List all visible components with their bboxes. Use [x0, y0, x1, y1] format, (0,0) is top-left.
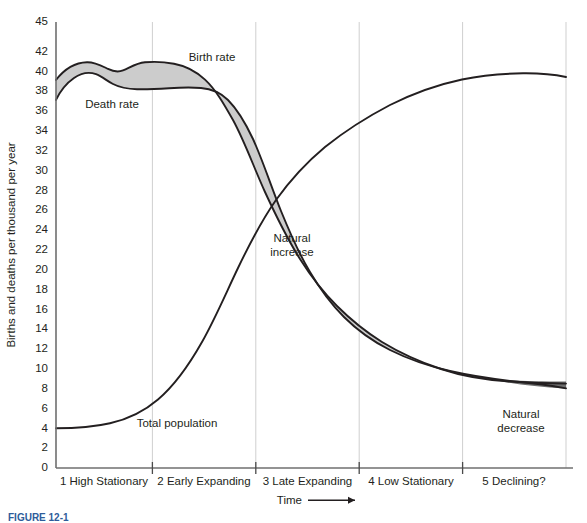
- figure-caption: FIGURE 12-1: [8, 512, 69, 523]
- y-tick-label: 36: [35, 104, 48, 116]
- stage-label-1: 1 High Stationary: [60, 475, 148, 487]
- y-axis-title: Births and deaths per thousand per year: [5, 142, 17, 347]
- y-tick-label: 40: [35, 65, 48, 77]
- annotation-total-population: Total population: [137, 417, 218, 429]
- y-tick-label: 30: [35, 164, 48, 176]
- y-tick-label: 32: [35, 144, 48, 156]
- y-tick-label: 45: [35, 15, 48, 27]
- y-tick-label: 14: [35, 322, 48, 334]
- y-tick-label: 26: [35, 203, 48, 215]
- y-tick-label: 34: [35, 124, 48, 136]
- y-tick-label: 6: [42, 402, 48, 414]
- stage-label-5: 5 Declining?: [482, 475, 545, 487]
- y-tick-label: 4: [42, 422, 49, 434]
- annotation-natural-decrease-line1: Natural: [502, 408, 539, 420]
- y-tick-label: 22: [35, 243, 48, 255]
- demographic-transition-chart: 45 42 40 38 36 34 32 30 28 26 24 22 20 1…: [0, 0, 587, 523]
- y-tick-label: 28: [35, 184, 48, 196]
- y-axis-tick-labels: 45 42 40 38 36 34 32 30 28 26 24 22 20 1…: [35, 15, 48, 473]
- y-tick-label: 12: [35, 342, 48, 354]
- annotation-death-rate: Death rate: [85, 98, 139, 110]
- stage-label-2: 2 Early Expanding: [157, 475, 250, 487]
- annotation-natural-increase-line1: Natural: [273, 232, 310, 244]
- annotation-natural-increase-line2: increase: [270, 246, 313, 258]
- y-tick-label: 42: [35, 45, 48, 57]
- annotation-natural-decrease-line2: decrease: [497, 422, 544, 434]
- y-tick-label: 18: [35, 283, 48, 295]
- annotation-birth-rate: Birth rate: [189, 51, 236, 63]
- figure-container: 45 42 40 38 36 34 32 30 28 26 24 22 20 1…: [0, 0, 587, 523]
- stage-label-4: 4 Low Stationary: [368, 475, 454, 487]
- y-tick-label: 10: [35, 362, 48, 374]
- stage-labels: 1 High Stationary 2 Early Expanding 3 La…: [60, 475, 546, 487]
- y-tick-label: 38: [35, 84, 48, 96]
- y-tick-label: 0: [42, 461, 48, 473]
- stage-label-3: 3 Late Expanding: [263, 475, 353, 487]
- x-axis-title: Time: [277, 494, 302, 506]
- y-tick-label: 24: [35, 223, 48, 235]
- y-tick-label: 20: [35, 263, 48, 275]
- y-tick-label: 2: [42, 441, 48, 453]
- right-arrow-icon: [308, 497, 355, 504]
- y-tick-label: 16: [35, 303, 48, 315]
- y-tick-label: 8: [42, 382, 48, 394]
